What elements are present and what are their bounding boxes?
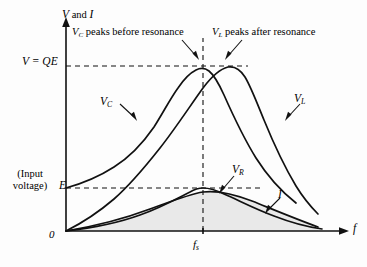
annotation-vl-peaks-after-resonance: VL peaks after resonance [212,26,315,39]
resonance-curves-figure: V and I VC peaks before resonance VL pea… [0,0,367,267]
curve-label-vl-symbol: V [294,92,301,104]
annotation-vc-subscript: C [78,31,83,39]
x-tick-label-fs-subscript: s [196,243,199,252]
x-axis-arrow-icon [339,227,349,235]
input-voltage-caption-line1: (Input [17,168,43,179]
curve-label-vc-symbol: V [100,95,107,107]
curve-label-vl-subscript: L [301,97,305,106]
origin-label: 0 [49,228,55,240]
input-voltage-caption-line2: voltage) [13,180,47,191]
y-tick-label-vqe: V = QE [22,55,58,68]
plot-canvas [0,0,367,267]
curve-label-vr-subscript: R [239,168,244,177]
x-tick-label-fs: fs [193,238,199,252]
y-axis-title-v: V [62,8,69,20]
curve-label-vr-symbol: V [232,163,239,175]
annotation-vc-text: peaks before resonance [86,26,184,37]
x-axis-title: f [353,222,356,235]
curve-label-vr: VR [232,163,244,178]
curve-label-vc: VC [100,95,112,110]
annotation-vc-peaks-before-resonance: VC peaks before resonance [72,26,184,39]
annotation-vl-text: peaks after resonance [225,26,315,37]
curve-vc [66,69,296,203]
leader-vc-label-arrow-icon [131,112,138,121]
curve-label-vl: VL [294,92,305,107]
input-voltage-caption: (Inputvoltage) [3,168,57,192]
curve-label-vc-subscript: C [107,100,112,109]
y-tick-label-e: E [59,179,66,192]
y-axis-title: V and I [62,8,93,21]
leader-vl-label-arrow-icon [285,112,292,121]
annotation-vl-subscript: L [218,31,222,39]
y-axis-title-i: I [89,8,93,20]
curve-label-current: I [278,188,282,201]
leader-vl-note-arrow-icon [225,51,232,60]
y-axis-title-and: and [69,9,89,20]
leader-vc-note-arrow-icon [193,51,200,60]
